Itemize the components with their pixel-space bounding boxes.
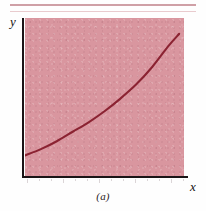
x-axis-tick: [135, 179, 136, 183]
x-axis-tick: [171, 179, 172, 183]
x-axis-tick: [75, 179, 76, 181]
x-axis-tick: [51, 179, 52, 181]
x-axis-tick: [183, 179, 184, 181]
x-axis-tick: [147, 179, 148, 181]
figure-panel: y x (a): [0, 0, 206, 211]
x-axis-tick: [39, 179, 40, 181]
x-axis-tick: [99, 179, 100, 183]
x-axis-tick: [111, 179, 112, 181]
data-curve: [25, 34, 179, 156]
x-axis-tick: [123, 179, 124, 181]
page-rule-secondary: [10, 11, 196, 12]
plot-area: [25, 18, 184, 176]
curve-svg: [25, 18, 184, 176]
x-axis-tick-row: [24, 179, 184, 184]
x-axis-line: [22, 176, 188, 178]
page-rule-top: [10, 4, 196, 6]
x-axis-tick: [63, 179, 64, 183]
y-axis-label: y: [10, 15, 16, 28]
x-axis-tick: [159, 179, 160, 181]
x-axis-tick: [27, 179, 28, 183]
y-axis-line: [22, 18, 24, 178]
x-axis-tick: [87, 179, 88, 181]
figure-caption: (a): [0, 190, 206, 202]
